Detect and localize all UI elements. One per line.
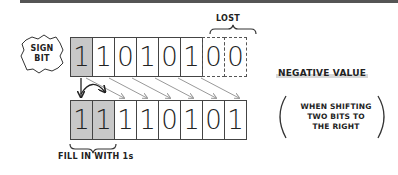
fill-with-ones-label: FILL IN WITH 1s <box>58 152 133 161</box>
shift-arrows <box>86 78 239 98</box>
note-line1: WHEN SHIFTING <box>286 102 386 112</box>
note-line3: THE RIGHT <box>286 122 386 132</box>
shift-note: WHEN SHIFTING TWO BITS TO THE RIGHT <box>286 102 386 132</box>
sign-fill-arrows <box>81 78 105 97</box>
negative-value-label: NEGATIVE VALUE <box>276 68 368 78</box>
lost-brace-icon <box>210 25 256 34</box>
diagram-overlay <box>0 0 398 175</box>
note-line2: TWO BITS TO <box>286 112 386 122</box>
